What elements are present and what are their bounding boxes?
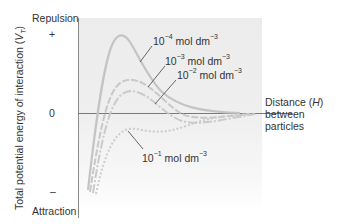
x-axis-label-line3: particles [265,120,323,132]
series-label-unit: mol dm [162,152,199,164]
repulsion-label: Repulsion [32,12,79,24]
series-label-exp: −4 [165,33,173,40]
attraction-label: Attraction [32,205,76,217]
plus-marker: + [49,28,55,40]
y-axis-label: Total potential energy of interaction (V… [13,26,27,210]
x-axis-label-var: H [312,96,320,108]
x-axis-label-line2: between [265,108,323,120]
series-label-unit: mol dm [197,69,234,81]
x-axis-label: Distance (H) between particles [265,96,323,132]
series-label-1e-1: 10−1 mol dm−3 [142,151,207,164]
x-axis-label-line1: Distance (H) [265,96,323,108]
series-label-1e-2: 10−2 mol dm−3 [177,68,242,81]
series-label-exp: −1 [154,150,162,157]
curve-1e-2 [93,91,255,193]
series-label-unit-exp: −3 [210,33,218,40]
series-label-unit-exp: −3 [234,67,242,74]
series-label-unit: mol dm [173,35,210,47]
series-label-unit-exp: −3 [199,150,207,157]
series-label-unit: mol dm [185,55,222,67]
x-axis-label-end: ) [320,96,324,108]
y-axis-label-sub: T [20,29,27,33]
y-axis-label-end: ) [13,26,25,30]
series-label-base: 10 [177,69,189,81]
zero-marker: 0 [49,107,55,119]
y-axis-label-var: V [13,34,25,41]
series-label-exp: −3 [177,53,185,60]
series-label-base: 10 [165,55,177,67]
curve-1e-3 [90,80,250,192]
x-axis-label-text: Distance ( [265,96,312,108]
leader-line-1e-4 [140,46,152,62]
series-label-base: 10 [142,152,154,164]
series-label-base: 10 [153,35,165,47]
series-label-1e-3: 10−3 mol dm−3 [165,54,230,67]
series-label-unit-exp: −3 [222,53,230,60]
leader-line-1e-1 [128,131,143,149]
series-label-exp: −2 [189,67,197,74]
y-axis-label-text: Total potential energy of interaction ( [13,41,25,210]
minus-marker: – [50,185,56,197]
series-label-1e-4: 10−4 mol dm−3 [153,34,218,47]
